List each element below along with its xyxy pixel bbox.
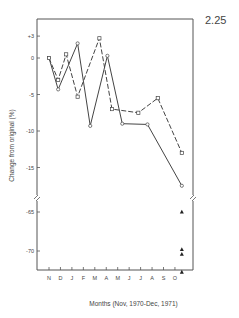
square-marker-icon bbox=[57, 78, 60, 81]
circle-marker-icon bbox=[57, 88, 60, 91]
x-tick-label: F bbox=[82, 275, 86, 281]
square-marker-icon bbox=[110, 108, 113, 111]
x-tick-label: S bbox=[162, 275, 166, 281]
x-axis-label: Months (Nov, 1970-Dec, 1971) bbox=[0, 300, 239, 307]
square-marker-icon bbox=[76, 95, 79, 98]
series-line bbox=[49, 43, 182, 185]
triangle-marker-icon bbox=[180, 252, 184, 256]
y-tick-label: -5 bbox=[29, 92, 34, 98]
x-tick-label: A bbox=[104, 275, 108, 281]
chart-frame bbox=[34, 19, 196, 270]
x-tick-label: A bbox=[150, 275, 154, 281]
square-marker-icon bbox=[98, 37, 101, 40]
axis-break-right-icon bbox=[190, 195, 196, 201]
circle-marker-icon bbox=[146, 123, 149, 126]
x-tick-label: O bbox=[173, 275, 178, 281]
axes-frame bbox=[37, 19, 193, 270]
x-tick-label: J bbox=[128, 275, 131, 281]
axis-break-left-icon bbox=[34, 195, 40, 201]
y-tick-label: -70 bbox=[26, 248, 34, 254]
x-tick-label: M bbox=[93, 275, 98, 281]
x-axis-ticks: NDJFMAMJJASO bbox=[47, 267, 178, 281]
series-line bbox=[49, 38, 182, 153]
x-tick-label: J bbox=[139, 275, 142, 281]
x-tick-label: M bbox=[115, 275, 120, 281]
y-tick-label: -65 bbox=[26, 209, 34, 215]
square-marker-icon bbox=[156, 97, 159, 100]
x-tick-label: D bbox=[58, 275, 62, 281]
y-tick-label: -15 bbox=[26, 165, 34, 171]
circle-marker-icon bbox=[89, 124, 92, 127]
figure-number: 2.25 bbox=[205, 14, 226, 26]
line-chart: +30-5-10-15-65-70 NDJFMAMJJASO bbox=[0, 0, 239, 318]
square-marker-icon bbox=[180, 151, 183, 154]
x-tick-label: N bbox=[47, 275, 51, 281]
square-marker-icon bbox=[47, 56, 50, 59]
triangle-marker-icon bbox=[180, 210, 184, 214]
square-marker-icon bbox=[137, 111, 140, 114]
triangle-marker-icon bbox=[180, 247, 184, 251]
y-tick-label: +3 bbox=[28, 33, 34, 39]
circle-marker-icon bbox=[121, 122, 124, 125]
x-tick-label: J bbox=[71, 275, 74, 281]
y-tick-label: -10 bbox=[26, 128, 34, 134]
square-marker-icon bbox=[65, 53, 68, 56]
data-series bbox=[47, 37, 183, 274]
y-tick-label: 0 bbox=[31, 55, 34, 61]
y-axis-ticks: +30-5-10-15-65-70 bbox=[26, 33, 40, 254]
circle-marker-icon bbox=[106, 54, 109, 57]
circle-marker-icon bbox=[76, 42, 79, 45]
circle-marker-icon bbox=[180, 184, 183, 187]
y-axis-label: Change from original (%) bbox=[8, 91, 15, 201]
